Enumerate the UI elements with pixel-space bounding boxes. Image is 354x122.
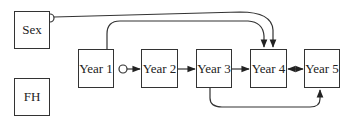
node-sex: Sex — [14, 11, 50, 49]
node-year1: Year 1 — [78, 49, 114, 88]
edge-year3-year5 — [210, 88, 320, 107]
node-label: Sex — [22, 22, 42, 38]
node-label: Year 3 — [197, 61, 231, 77]
node-label: FH — [24, 89, 41, 105]
node-year5: Year 5 — [304, 49, 340, 88]
causal-diagram: Sex FH Year 1 Year 2 Year 3 Year 4 Year … — [0, 0, 354, 122]
edge-sex-year4 — [54, 12, 273, 47]
node-label: Year 2 — [143, 61, 177, 77]
node-label: Year 1 — [79, 61, 113, 77]
node-label: Year 5 — [305, 61, 339, 77]
node-fh: FH — [14, 78, 50, 116]
edge-tail-circle-icon — [119, 65, 127, 73]
node-year4: Year 4 — [250, 49, 287, 88]
node-label: Year 4 — [252, 61, 286, 77]
edge-year1-year4 — [107, 21, 264, 49]
node-year3: Year 3 — [196, 49, 232, 88]
node-year2: Year 2 — [141, 49, 178, 88]
